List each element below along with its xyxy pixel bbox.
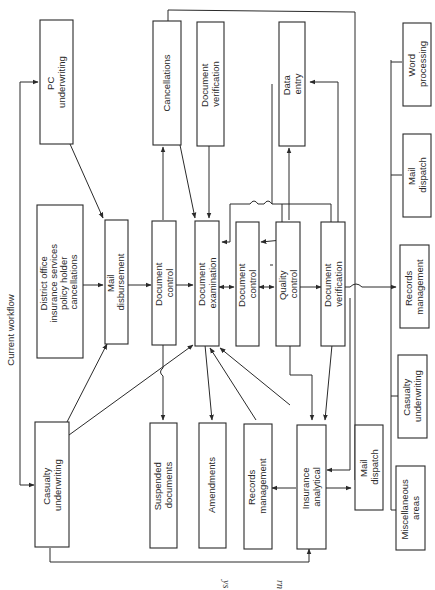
box-casualty-underwriting-right: Casualty underwriting [398,355,427,438]
svg-text:Casualty underwriting: Casualty underwriting [401,370,423,422]
svg-text:Document verification: Document verification [199,61,221,107]
box-document-control-2: Document control [236,222,259,346]
box-amendments: Amendments [199,423,226,548]
diagram-title: Current workflow [5,294,16,365]
box-document-verification-top: Document verification [197,22,224,146]
box-document-control-1: Document control [152,221,176,345]
box-cancellations: Cancellations [153,21,181,145]
box-casualty-underwriting-left: Casualty underwriting [35,422,69,547]
svg-text:Amendments: Amendments [206,457,217,513]
box-quality-control: Quality control [276,222,300,346]
box-district-office: District office insurance services polic… [37,205,83,358]
box-mail-disbursement: Mail disbursement [105,220,128,344]
box-data-entry: Data entry [279,22,305,146]
svg-text:Document verification: Document verification [322,261,344,307]
box-document-examination: Document examination [195,221,219,346]
caption-fragment-1: ys [221,579,232,588]
box-suspended-documents: Suspended documents [150,423,177,548]
box-records-management-right: Records management [400,245,429,328]
box-mail-dispatch-left: Mail dispatch [355,425,383,510]
svg-text:Document examination: Document examination [196,257,218,308]
box-miscellaneous-areas: Miscellaneous areas [396,466,425,550]
caption-fragment-2: rn [275,580,286,589]
svg-text:Insurance analytical: Insurance analytical [300,465,322,509]
workflow-diagram: Current workflow [0,0,435,590]
box-word-processing: Word processing [403,23,431,106]
svg-text:Suspended documents: Suspended documents [152,460,174,511]
box-insurance-analytical: Insurance analytical [297,425,326,549]
svg-text:Casualty underwriting: Casualty underwriting [41,459,63,511]
box-mail-dispatch-right: Mail dispatch [403,134,431,217]
svg-text:Data entry: Data entry [281,73,303,96]
box-records-management-left: Records management [244,424,272,549]
box-document-verification-mid: Document verification [321,222,345,346]
svg-text:Quality control: Quality control [277,268,299,300]
box-pc-underwriting: PC underwriting [40,20,73,144]
svg-text:Cancellations: Cancellations [161,54,172,111]
